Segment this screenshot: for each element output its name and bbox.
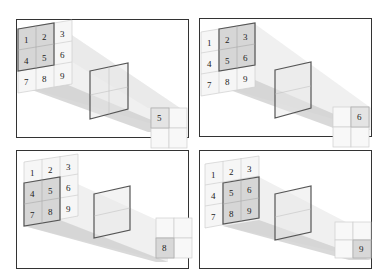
grid-number: 8: [42, 74, 47, 84]
grid-number: 7: [207, 80, 212, 90]
grid-number: 8: [225, 77, 230, 87]
diagram-shape: [335, 222, 353, 240]
diagram-shape: [351, 127, 369, 147]
grid-number: 2: [42, 32, 47, 42]
conv-diagram-bottom-left: 1 2 3 4 5 6 7 8 9 8: [16, 150, 190, 270]
diagram-shape: [174, 218, 192, 238]
panel-bottom-right: 1 2 3 4 5 6 7 8 9 9: [199, 150, 372, 269]
grid-number: 5: [225, 56, 230, 66]
diagram-shape: [156, 218, 174, 238]
grid-number: 4: [24, 56, 29, 66]
diagram-shape: [174, 238, 192, 258]
grid-number: 3: [247, 164, 252, 174]
grid-number: 8: [48, 207, 53, 217]
grid-number: 6: [60, 50, 65, 60]
panel-top-left: 1 2 3 4 5 6 7 8 9 5: [16, 19, 189, 138]
grid-number: 3: [66, 162, 71, 172]
conv-diagram-bottom-right: 1 2 3 4 5 6 7 8 9 9: [199, 150, 373, 270]
diagram-shape: [353, 222, 371, 240]
grid-number: 9: [60, 71, 65, 81]
output-value: 8: [162, 243, 167, 253]
diagram-shape: [151, 128, 169, 148]
grid-number: 5: [48, 186, 53, 196]
output-value: 6: [357, 112, 362, 122]
grid-number: 5: [42, 53, 47, 63]
conv-diagram-top-left: 1 2 3 4 5 6 7 8 9 5: [16, 19, 190, 139]
grid-number: 6: [66, 183, 71, 193]
grid-number: 5: [229, 188, 234, 198]
grid-number: 4: [30, 189, 35, 199]
grid-number: 7: [24, 77, 29, 87]
grid-number: 3: [60, 29, 65, 39]
grid-number: 1: [211, 170, 216, 180]
grid-number: 4: [207, 59, 212, 69]
output-value: 9: [359, 244, 364, 254]
diagram-shape: [169, 128, 187, 148]
grid-number: 3: [243, 32, 248, 42]
grid-number: 1: [207, 38, 212, 48]
grid-number: 2: [225, 35, 230, 45]
grid-number: 2: [229, 167, 234, 177]
grid-number: 9: [247, 206, 252, 216]
grid-number: 1: [30, 168, 35, 178]
diagram-shape: [169, 108, 187, 128]
cell: 1: [24, 35, 29, 45]
diagram-shape: [333, 127, 351, 147]
diagram-shape: [335, 240, 353, 258]
grid-number: 2: [48, 165, 53, 175]
diagram-shape: [333, 107, 351, 127]
panel-top-right: 1 2 3 4 5 6 7 8 9 6: [199, 18, 372, 137]
conv-diagram-top-right: 1 2 3 4 5 6 7 8 9 6: [199, 18, 373, 138]
output-value: 5: [157, 113, 162, 123]
grid-number: 7: [30, 210, 35, 220]
grid-number: 6: [247, 185, 252, 195]
grid-number: 4: [211, 191, 216, 201]
grid-number: 8: [229, 209, 234, 219]
grid-number: 9: [66, 204, 71, 214]
grid-number: 9: [243, 74, 248, 84]
grid-number: 6: [243, 53, 248, 63]
grid-number: 7: [211, 212, 216, 222]
panel-bottom-left: 1 2 3 4 5 6 7 8 9 8: [16, 150, 189, 269]
